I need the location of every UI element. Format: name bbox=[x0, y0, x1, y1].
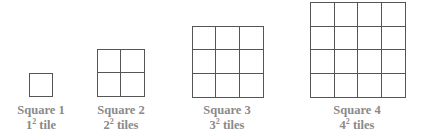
tile bbox=[216, 27, 239, 50]
tile bbox=[311, 27, 335, 51]
square-1-label: Square 112 tile bbox=[17, 103, 64, 133]
tile bbox=[30, 74, 52, 96]
tile bbox=[193, 50, 216, 73]
tile bbox=[216, 50, 239, 73]
square-1-grid bbox=[29, 73, 53, 97]
tile bbox=[358, 3, 382, 27]
tile bbox=[335, 3, 359, 27]
square-title: Square 1 bbox=[17, 103, 64, 118]
tile bbox=[240, 74, 263, 97]
square-2-grid bbox=[97, 49, 145, 97]
tile bbox=[335, 27, 359, 51]
tile bbox=[240, 27, 263, 50]
tile bbox=[358, 50, 382, 74]
square-4-grid bbox=[310, 2, 406, 98]
tile bbox=[382, 3, 406, 27]
tile bbox=[98, 73, 121, 96]
square-3-label: Square 332 tiles bbox=[203, 103, 250, 133]
square-title: Square 3 bbox=[203, 103, 250, 118]
tile bbox=[216, 74, 239, 97]
square-3-grid bbox=[192, 26, 264, 98]
tile bbox=[382, 50, 406, 74]
tile bbox=[98, 50, 121, 73]
tile bbox=[335, 74, 359, 98]
tile bbox=[358, 74, 382, 98]
square-title: Square 2 bbox=[97, 103, 144, 118]
tile-count: 32 tiles bbox=[203, 118, 250, 133]
tile bbox=[382, 27, 406, 51]
tile bbox=[193, 74, 216, 97]
tile bbox=[311, 50, 335, 74]
tile-count: 22 tiles bbox=[97, 118, 144, 133]
tile bbox=[335, 50, 359, 74]
tile-count: 12 tile bbox=[17, 118, 64, 133]
tile bbox=[311, 3, 335, 27]
tile bbox=[121, 73, 144, 96]
tile bbox=[382, 74, 406, 98]
square-title: Square 4 bbox=[333, 103, 380, 118]
tile bbox=[193, 27, 216, 50]
square-2-label: Square 222 tiles bbox=[97, 103, 144, 133]
tile bbox=[311, 74, 335, 98]
tile bbox=[121, 50, 144, 73]
tile bbox=[240, 50, 263, 73]
tile-count: 42 tiles bbox=[333, 118, 380, 133]
tile bbox=[358, 27, 382, 51]
square-4-label: Square 442 tiles bbox=[333, 103, 380, 133]
